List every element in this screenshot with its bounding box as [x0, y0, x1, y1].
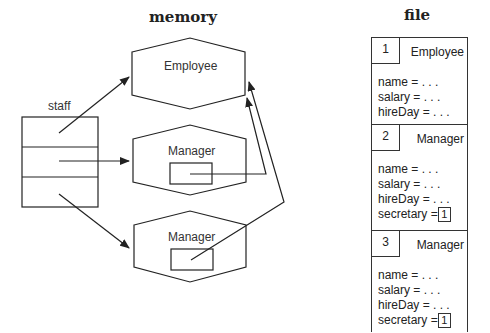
employee-object — [132, 38, 245, 109]
record-fields: name = . . . salary = . . . hireDay = . … — [378, 268, 451, 328]
field-hireday: hireDay = . . . — [378, 298, 451, 313]
record-fields: name = . . . salary = . . . hireDay = . … — [378, 75, 450, 120]
field-salary: salary = . . . — [378, 283, 451, 298]
file-record-1: 1 Employee name = . . . salary = . . . h… — [372, 38, 468, 124]
staff-label: staff — [48, 99, 70, 113]
file-record-2: 2 Manager name = . . . salary = . . . hi… — [372, 124, 468, 230]
secretary-ref-box: 1 — [438, 207, 451, 222]
field-secretary: secretary =1 — [378, 207, 451, 222]
file-record-3: 3 Manager name = . . . salary = . . . hi… — [372, 230, 468, 333]
field-salary: salary = . . . — [378, 90, 450, 105]
secretary-ref-box: 1 — [438, 313, 451, 328]
field-secretary: secretary =1 — [378, 313, 451, 328]
record-type: Manager — [417, 238, 464, 252]
record-fields: name = . . . salary = . . . hireDay = . … — [378, 162, 451, 222]
manager-label-2: Manager — [168, 230, 215, 244]
field-hireday: hireDay = . . . — [378, 192, 451, 207]
field-hireday: hireDay = . . . — [378, 105, 450, 120]
field-salary: salary = . . . — [378, 177, 451, 192]
field-name: name = . . . — [378, 162, 451, 177]
employee-label: Employee — [164, 59, 217, 73]
field-name: name = . . . — [378, 268, 451, 283]
staff-ref-arrow-3 — [59, 194, 129, 248]
staff-array — [22, 117, 98, 207]
field-name: name = . . . — [378, 75, 450, 90]
record-index: 3 — [372, 231, 400, 257]
record-type: Employee — [411, 45, 464, 59]
file-column: 1 Employee name = . . . salary = . . . h… — [371, 37, 468, 332]
record-index: 2 — [372, 125, 400, 151]
record-type: Manager — [417, 132, 464, 146]
manager-object-2 — [134, 211, 246, 282]
manager-label-1: Manager — [168, 144, 215, 158]
record-index: 1 — [372, 38, 400, 64]
